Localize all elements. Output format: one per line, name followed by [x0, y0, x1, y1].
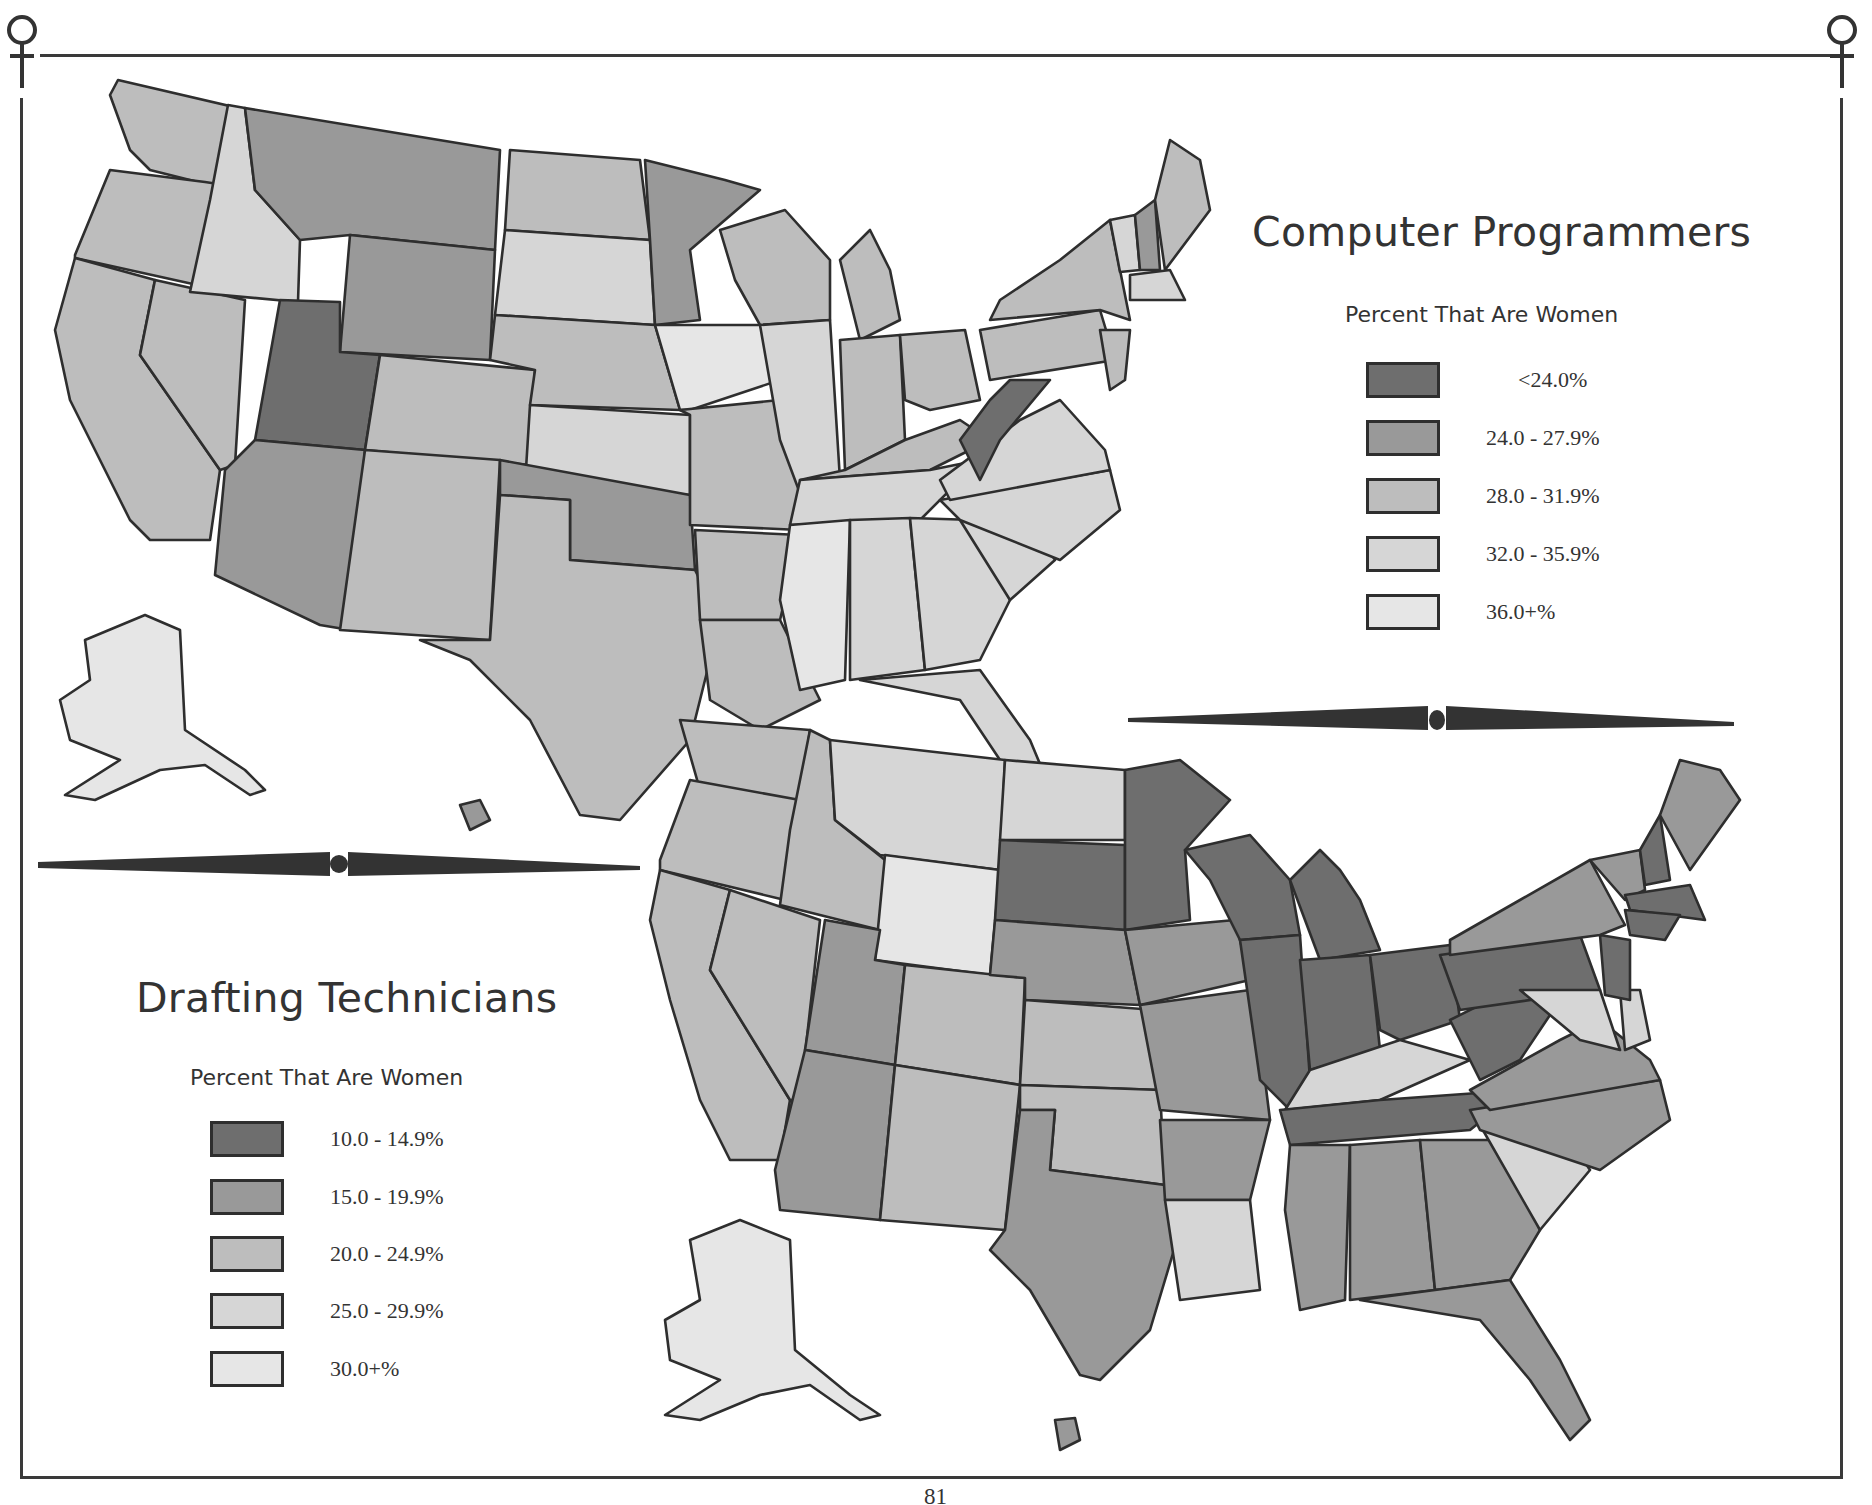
state-ny	[1450, 860, 1625, 955]
state-me	[1660, 760, 1740, 870]
legend-title-drafting-technicians: Percent That Are Women	[190, 1065, 463, 1090]
legend-swatch	[210, 1351, 284, 1387]
state-sd	[995, 840, 1125, 930]
state-ak	[665, 1220, 880, 1420]
state-ms	[1285, 1145, 1350, 1310]
legend-item: 20.0 - 24.9%	[210, 1236, 444, 1272]
legend-swatch	[210, 1236, 284, 1272]
state-ct	[1625, 910, 1680, 940]
state-wy	[875, 855, 1000, 975]
legend-label: 30.0+%	[330, 1356, 399, 1382]
legend-label: 10.0 - 14.9%	[330, 1126, 444, 1152]
legend-item: 25.0 - 29.9%	[210, 1293, 444, 1329]
state-fl	[1360, 1280, 1590, 1440]
legend-swatch	[210, 1179, 284, 1215]
legend-label: 15.0 - 19.9%	[330, 1184, 444, 1210]
legend-label: 20.0 - 24.9%	[330, 1241, 444, 1267]
state-ar	[1160, 1120, 1270, 1200]
state-nd	[1000, 760, 1125, 840]
legend-swatch	[210, 1121, 284, 1157]
drafting-technicians-map	[0, 0, 1872, 1505]
state-nm	[880, 1065, 1020, 1230]
map-title-drafting-technicians: Drafting Technicians	[136, 974, 557, 1022]
state-shapes-bottom	[650, 720, 1740, 1450]
legend-item: 30.0+%	[210, 1351, 399, 1387]
legend-swatch	[210, 1293, 284, 1329]
legend-item: 10.0 - 14.9%	[210, 1121, 444, 1157]
legend-label: 25.0 - 29.9%	[330, 1298, 444, 1324]
state-ks	[1020, 1000, 1160, 1090]
state-la	[1165, 1200, 1260, 1300]
page-number: 81	[924, 1484, 947, 1505]
legend-item: 15.0 - 19.9%	[210, 1179, 444, 1215]
state-nj	[1600, 935, 1630, 1000]
state-hi	[1055, 1418, 1080, 1450]
state-mi	[1290, 850, 1380, 960]
